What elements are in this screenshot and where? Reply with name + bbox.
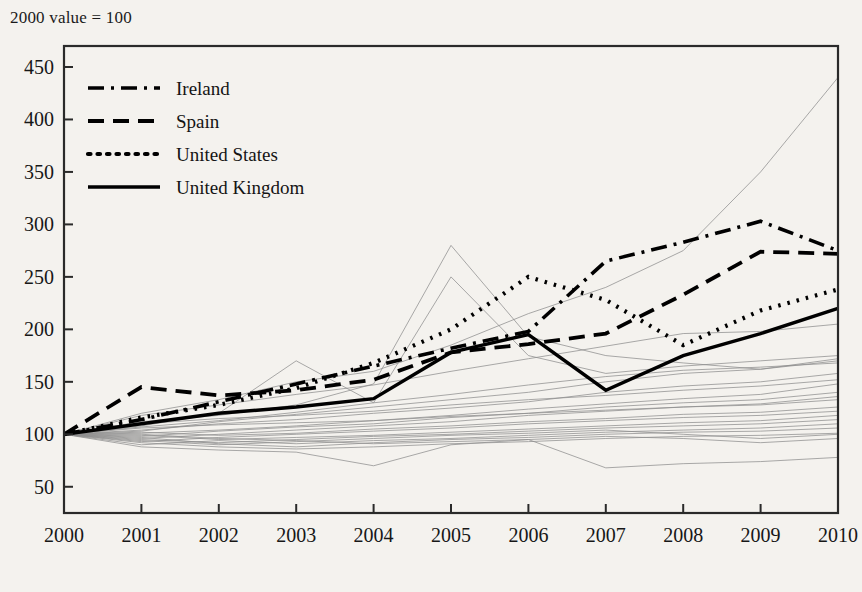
y-tick-label-400: 400 — [24, 108, 54, 130]
y-tick-label-250: 250 — [24, 266, 54, 288]
background-series-line-5 — [64, 363, 838, 434]
x-tick-label-2006: 2006 — [508, 524, 548, 546]
y-tick-label-450: 450 — [24, 56, 54, 78]
highlighted-series-layer — [64, 221, 838, 434]
y-tick-label-50: 50 — [34, 476, 54, 498]
x-tick-label-2004: 2004 — [354, 524, 394, 546]
x-tick-label-2003: 2003 — [276, 524, 316, 546]
x-tick-label-2007: 2007 — [586, 524, 626, 546]
legend-label-spain: Spain — [176, 111, 220, 132]
y-tick-label-150: 150 — [24, 371, 54, 393]
y-tick-label-350: 350 — [24, 161, 54, 183]
x-tick-label-2001: 2001 — [121, 524, 161, 546]
x-tick-label-2000: 2000 — [44, 524, 84, 546]
x-tick-label-2009: 2009 — [741, 524, 781, 546]
legend-label-united-states: United States — [176, 144, 278, 165]
x-tick-label-2010: 2010 — [818, 524, 858, 546]
series-line-ireland — [64, 221, 838, 434]
x-tick-label-2008: 2008 — [663, 524, 703, 546]
x-tick-label-2005: 2005 — [431, 524, 471, 546]
series-line-united-states — [64, 277, 838, 434]
background-series-line-9 — [64, 392, 838, 436]
legend-label-ireland: Ireland — [176, 78, 230, 99]
x-tick-label-2002: 2002 — [199, 524, 239, 546]
y-tick-label-200: 200 — [24, 318, 54, 340]
y-tick-label-300: 300 — [24, 213, 54, 235]
y-tick-label-100: 100 — [24, 423, 54, 445]
legend-label-united-kingdom: United Kingdom — [176, 177, 304, 198]
background-series-line-1 — [64, 277, 838, 434]
chart-container: 2000 value = 100 50100150200250300350400… — [0, 0, 862, 592]
background-series-layer — [64, 77, 838, 467]
chart-legend: IrelandSpainUnited StatesUnited Kingdom — [88, 78, 304, 198]
line-chart-plot: 5010015020025030035040045020002001200220… — [0, 0, 862, 592]
